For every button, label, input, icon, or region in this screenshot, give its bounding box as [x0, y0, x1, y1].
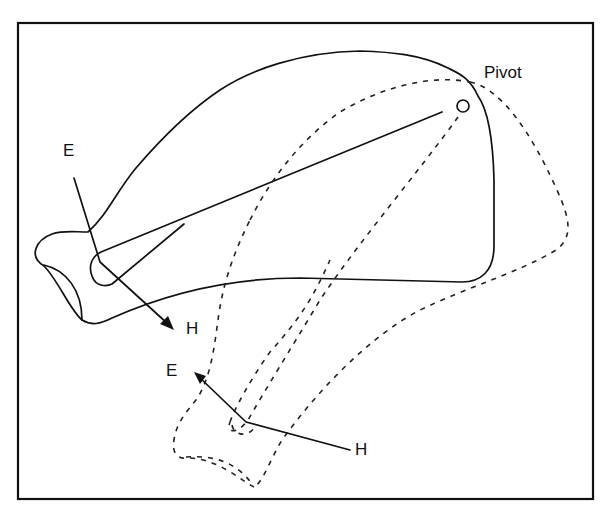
- label-e-rotated: E: [166, 361, 177, 380]
- initial-bone-outline: [35, 51, 494, 324]
- main-frame: [19, 24, 595, 250]
- label-h-rotated: H: [355, 440, 367, 459]
- initial-eh-arrow: [74, 178, 174, 330]
- label-e-initial: E: [63, 141, 74, 160]
- pivot-circle: [457, 100, 469, 112]
- box-border: [19, 24, 595, 250]
- bone-rotation-diagram: Pivot E H E H: [0, 0, 608, 516]
- label-h-initial: H: [186, 319, 198, 338]
- frame-box: [18, 23, 593, 499]
- label-pivot: Pivot: [484, 63, 522, 82]
- rotated-he-arrow: [194, 372, 350, 450]
